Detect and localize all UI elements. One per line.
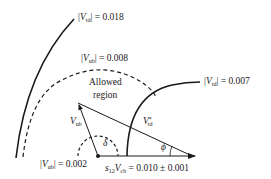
unitarity-diagram: |Vtd| = 0.018 |Vub| = 0.008 Allowed regi… — [0, 0, 271, 179]
vtd-outer-arc — [16, 19, 74, 158]
label-vtd-inner: |Vtd| = 0.007 — [204, 77, 250, 87]
label-vtd-vector: V*td — [143, 116, 152, 127]
label-allowed: Allowed — [89, 78, 122, 88]
label-region: region — [93, 91, 117, 101]
phi-angle-arc — [170, 146, 172, 156]
label-vub-outer: |Vub| = 0.008 — [81, 54, 128, 64]
label-base: s12Vcb = 0.010 ± 0.001 — [105, 164, 189, 174]
vub-vector — [79, 105, 98, 156]
vub-inner-arc — [78, 136, 118, 156]
label-vtd-outer: |Vtd| = 0.018 — [78, 13, 124, 23]
label-vub-inner: |Vub| = 0.002 — [40, 160, 87, 170]
diagram-canvas — [0, 0, 271, 179]
label-delta: δ — [103, 139, 107, 149]
label-vub-vector: Vub — [70, 117, 82, 127]
origin-dot — [96, 154, 100, 158]
label-phi: ϕ — [161, 143, 166, 153]
